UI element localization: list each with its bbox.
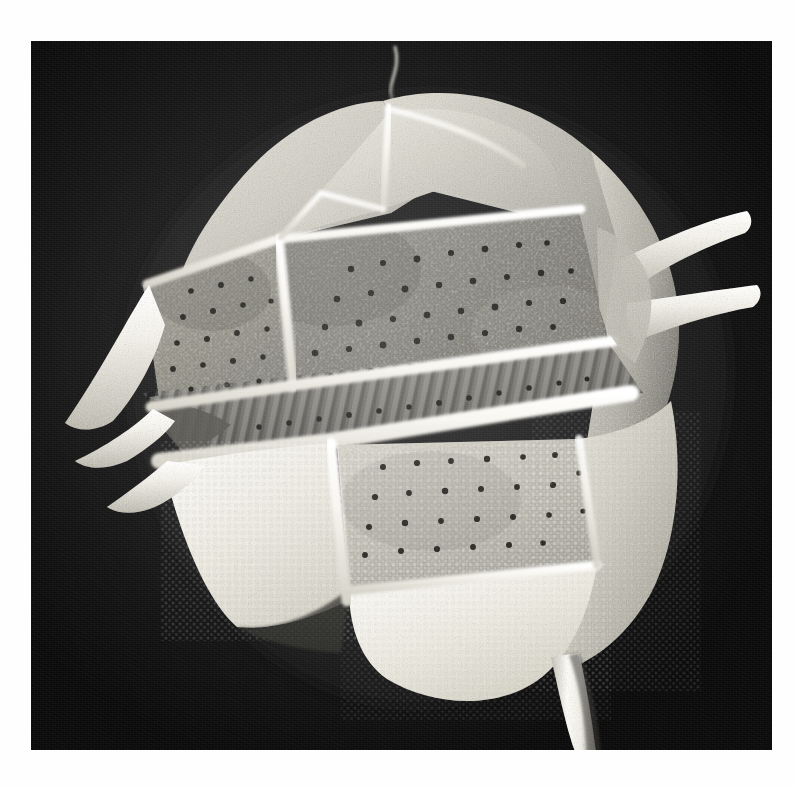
plate-caption bbox=[31, 756, 772, 782]
micrograph-photo bbox=[31, 41, 772, 750]
specimen-illustration bbox=[31, 41, 772, 750]
micrograph-page bbox=[0, 0, 794, 787]
specular-highlight bbox=[31, 41, 772, 750]
